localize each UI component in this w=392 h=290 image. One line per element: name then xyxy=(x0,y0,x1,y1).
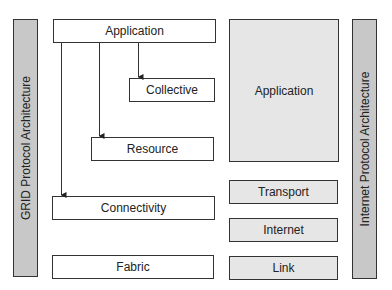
internet-layer-link-label: Link xyxy=(272,261,294,275)
internet-layer-transport-label: Transport xyxy=(258,185,309,199)
internet-layer-application-label: Application xyxy=(255,84,314,98)
internet-layer-internet: Internet xyxy=(229,218,338,242)
internet-layer-link: Link xyxy=(229,256,338,280)
internet-layer-application: Application xyxy=(229,19,339,162)
internet-layer-internet-label: Internet xyxy=(263,223,304,237)
internet-architecture-label: Internet Protocol Architecture xyxy=(358,72,372,227)
internet-architecture-bar: Internet Protocol Architecture xyxy=(352,19,377,279)
internet-layer-transport: Transport xyxy=(229,180,338,204)
